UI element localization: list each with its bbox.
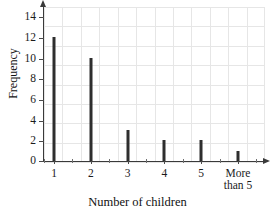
plot-area (44, 7, 265, 162)
x-axis-line (43, 161, 264, 162)
y-axis-arrow-icon (40, 0, 46, 7)
y-tick (39, 141, 44, 142)
y-tick (39, 79, 44, 80)
y-axis-title: Frequency (6, 29, 21, 119)
bar-2 (89, 58, 92, 161)
gridline-vertical (210, 7, 211, 162)
frequency-bar-chart: 0 2 4 6 8 10 12 14 1 2 3 4 5 More than 5… (0, 0, 275, 216)
bar-1 (53, 37, 56, 161)
gridline-vertical (173, 7, 174, 162)
gridline-vertical (81, 7, 82, 162)
x-tick-label-line: than 5 (216, 179, 260, 191)
x-tick-label: 3 (125, 167, 131, 179)
gridline-vertical (62, 7, 63, 162)
gridline-vertical (99, 7, 100, 162)
x-tick-label: 1 (51, 167, 57, 179)
x-axis-arrow-icon (263, 158, 270, 164)
bar-3 (126, 130, 129, 161)
y-tick-label: 14 (0, 11, 36, 23)
gridline-vertical (228, 7, 229, 162)
y-tick (39, 59, 44, 60)
x-tick-minor (146, 159, 147, 163)
gridline-vertical (155, 7, 156, 162)
x-tick-minor (220, 159, 221, 163)
x-tick-label: 2 (88, 167, 94, 179)
y-tick (39, 38, 44, 39)
x-axis-title: Number of children (0, 195, 275, 210)
x-tick-label-line: More (216, 167, 260, 179)
x-tick-minor (256, 159, 257, 163)
x-tick-label: 5 (198, 167, 204, 179)
y-axis-line (43, 5, 44, 162)
y-tick-label: 2 (0, 135, 36, 147)
gridline-vertical (191, 7, 192, 162)
gridline-vertical (136, 7, 137, 162)
x-tick-label: 4 (162, 167, 168, 179)
y-tick (39, 121, 44, 122)
bar-5 (200, 140, 203, 161)
gridline-vertical (247, 7, 248, 162)
x-tick-minor (109, 159, 110, 163)
gridline-vertical (118, 7, 119, 162)
y-tick (39, 17, 44, 18)
bar-4 (163, 140, 166, 161)
x-tick-minor (72, 159, 73, 163)
bar-more-than-5 (237, 151, 240, 161)
x-tick-minor (183, 159, 184, 163)
gridline-vertical (264, 7, 265, 162)
y-tick-label: 0 (0, 155, 36, 167)
y-tick (39, 100, 44, 101)
x-tick-label: More than 5 (216, 167, 260, 191)
x-tick-minor (44, 159, 45, 163)
